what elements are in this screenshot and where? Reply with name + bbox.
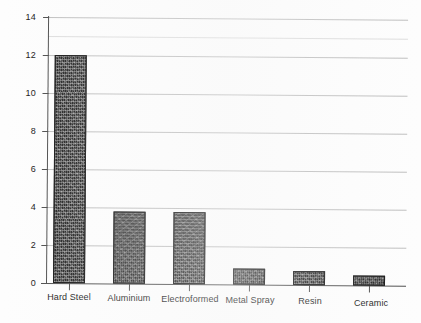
x-tick-mark-1: [69, 283, 70, 290]
x-label-hard-steel: Hard Steel: [47, 292, 91, 302]
y-tick-label-4: 4: [8, 203, 36, 212]
y-tick-label-14: 14: [8, 13, 36, 22]
plot-skew-wrapper: [0, 0, 421, 323]
y-tick-label-0: 0: [8, 279, 36, 288]
x-label-metal-spray: Metal Spray: [225, 295, 274, 305]
x-label-resin: Resin: [298, 296, 322, 306]
x-label-electroformed: Electroformed: [161, 294, 218, 304]
x-tick-mark-4: [249, 285, 250, 292]
bar-chart-figure: 14 12 10 8 6 4 2 0 Hard Steel Aluminium …: [0, 0, 421, 323]
x-tick-mark-2: [129, 284, 130, 291]
y-tick-label-10: 10: [8, 89, 36, 98]
bar-aluminium[interactable]: [113, 211, 146, 283]
y-tick-label-12: 12: [8, 51, 36, 60]
y-tick-label-6: 6: [8, 165, 36, 174]
bar-ceramic[interactable]: [353, 275, 385, 286]
bars-group: [46, 17, 408, 286]
bar-hard-steel[interactable]: [53, 55, 87, 283]
x-label-ceramic: Ceramic: [354, 298, 388, 308]
x-axis-labels-group: Hard Steel Aluminium Electroformed Metal…: [0, 292, 421, 312]
bar-electroformed[interactable]: [173, 212, 206, 284]
y-tick-label-2: 2: [8, 241, 36, 250]
x-label-aluminium: Aluminium: [108, 293, 151, 303]
bar-metal-spray[interactable]: [233, 268, 265, 284]
y-tick-label-8: 8: [8, 127, 36, 136]
x-tick-mark-3: [189, 284, 190, 291]
bar-resin[interactable]: [293, 271, 325, 286]
y-tick-mark-0: [41, 283, 47, 284]
